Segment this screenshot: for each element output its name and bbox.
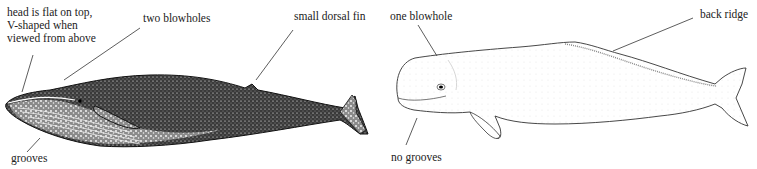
leader-no-grooves (406, 118, 417, 145)
label-one-blowhole: one blowhole (390, 10, 452, 23)
leader-head (22, 55, 33, 92)
leader-small-dorsal-fin (256, 30, 293, 80)
label-grooves: grooves (11, 152, 47, 165)
whale-illustrations (0, 0, 757, 169)
label-back-ridge: back ridge (700, 8, 748, 21)
beluga-whale-drawing (397, 42, 748, 139)
label-two-blowholes: two blowholes (143, 12, 210, 25)
leader-back-ridge (613, 18, 693, 51)
label-small-dorsal-fin: small dorsal fin (294, 10, 366, 23)
leader-one-blowhole (418, 25, 437, 56)
leader-grooves (27, 138, 40, 152)
whale-comparison-figure: head is flat on top, V-shaped when viewe… (0, 0, 757, 169)
label-head-flat: head is flat on top, V-shaped when viewe… (7, 6, 96, 45)
label-no-grooves: no grooves (391, 151, 442, 164)
baleen-whale-drawing (6, 75, 368, 147)
